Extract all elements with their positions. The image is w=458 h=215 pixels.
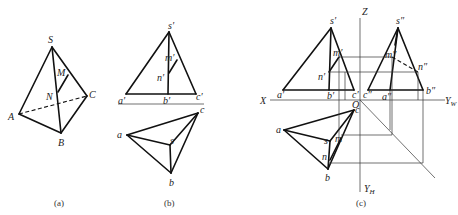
label-b: b	[169, 177, 174, 188]
label-s-double-prime: s″	[396, 15, 405, 26]
label-s-prime: s′	[168, 20, 175, 31]
label-m: m	[335, 133, 342, 144]
label-a-prime: a′	[277, 89, 285, 100]
45-degree-line	[360, 100, 435, 178]
label-b-prime: b′	[163, 95, 171, 106]
label-s-prime: s′	[330, 15, 337, 26]
label-n-prime: n′	[157, 72, 165, 83]
label-A: A	[7, 111, 15, 122]
label-n-prime: n′	[318, 71, 326, 82]
label-axis-x: X	[259, 95, 267, 106]
label-axis-yw: YW	[445, 95, 458, 108]
label-M: M	[56, 67, 66, 78]
label-n-double-prime: n″	[418, 61, 428, 72]
caption-a: (a)	[54, 198, 64, 208]
label-s: s	[170, 135, 174, 146]
label-B: B	[58, 137, 64, 148]
label-S: S	[48, 34, 53, 45]
label-N: N	[45, 91, 54, 102]
label-c-prime: c′	[196, 91, 203, 102]
label-c: c	[355, 104, 360, 115]
label-c: c	[200, 104, 205, 115]
label-C: C	[89, 89, 96, 100]
label-m-prime: m′	[165, 52, 175, 63]
projection-diagram: S M N A B C (a) s′ m′ n′ a′ b′ c′ c a s …	[0, 0, 458, 215]
figure-b-two-view: s′ m′ n′ a′ b′ c′ c a s b (b)	[117, 20, 205, 208]
label-a: a	[276, 124, 281, 135]
label-c-double-prime: c″	[363, 89, 372, 100]
label-a-prime: a′	[118, 95, 126, 106]
label-axis-yh: YH	[364, 183, 376, 196]
figure-a-pyramid-pictorial: S M N A B C (a)	[7, 34, 96, 208]
label-b-double-prime: b″	[426, 85, 436, 96]
label-m-prime: m′	[333, 47, 343, 58]
label-s: s	[324, 135, 328, 146]
label-m-double-prime: m″	[385, 49, 397, 60]
figure-c-three-view: s′ m′ n′ a′ b′ c′ c″ s″ m″ n″ a″ b″ Z X …	[259, 6, 458, 208]
label-a-double-prime: a″	[382, 91, 392, 102]
label-a: a	[117, 129, 122, 140]
caption-c: (c)	[356, 198, 366, 208]
label-axis-z: Z	[362, 6, 368, 17]
label-b-prime: b′	[327, 90, 335, 101]
label-b: b	[325, 172, 330, 183]
caption-b: (b)	[164, 198, 175, 208]
label-n: n	[322, 151, 327, 162]
